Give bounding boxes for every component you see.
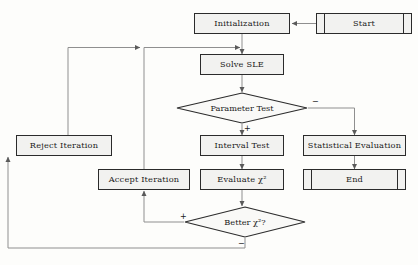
node-label: Statistical Evaluation	[308, 141, 401, 150]
terminator-cap-right	[403, 14, 404, 33]
edge-reject-to-solve-loop	[68, 48, 140, 136]
node-label: End	[346, 175, 363, 184]
edge-betterchi-plus-accept	[144, 191, 184, 222]
terminator-cap-left	[311, 170, 312, 189]
node-start[interactable]: Start	[316, 13, 412, 34]
node-label: Evaluate χ²	[217, 175, 266, 184]
node-statistical-evaluation[interactable]: Statistical Evaluation	[303, 135, 406, 156]
node-parameter-test[interactable]: Parameter Test	[176, 92, 308, 124]
edge-paramtest-minus-stateval	[308, 108, 355, 135]
branch-label-better-chi-minus: −	[238, 240, 245, 248]
branch-label-parameter-test-minus: −	[312, 98, 319, 106]
node-end[interactable]: End	[303, 169, 406, 190]
terminator-cap-left	[324, 14, 325, 33]
node-reject-iteration[interactable]: Reject Iteration	[16, 135, 112, 156]
node-solve-sle[interactable]: Solve SLE	[200, 54, 284, 75]
node-accept-iteration[interactable]: Accept Iteration	[98, 169, 190, 190]
node-label: Initialization	[214, 19, 269, 28]
node-interval-test[interactable]: Interval Test	[200, 135, 284, 156]
branch-label-better-chi-plus: +	[180, 213, 187, 221]
node-label: Interval Test	[214, 141, 269, 150]
node-label: Accept Iteration	[109, 175, 180, 184]
node-label: Parameter Test	[176, 92, 308, 124]
node-label: Start	[353, 19, 375, 28]
node-better-chi-squared[interactable]: Better χ²?	[184, 206, 306, 238]
branch-label-parameter-test-plus: +	[244, 125, 251, 133]
node-initialization[interactable]: Initialization	[194, 13, 290, 34]
flowchart-canvas: Start Initialization Solve SLE Parameter…	[0, 0, 418, 265]
node-label: Solve SLE	[220, 60, 264, 69]
node-evaluate-chi-squared[interactable]: Evaluate χ²	[200, 169, 284, 190]
terminator-cap-right	[397, 170, 398, 189]
node-label: Better χ²?	[184, 206, 306, 238]
node-label: Reject Iteration	[30, 141, 98, 150]
